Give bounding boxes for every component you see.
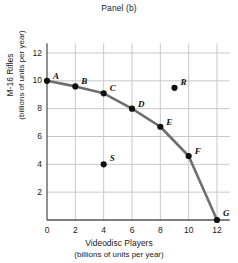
data-point-g: G — [223, 208, 230, 218]
x-tick-0: 0 — [39, 225, 55, 235]
x-tick-2: 2 — [67, 225, 83, 235]
x-tick-8: 8 — [152, 225, 168, 235]
y-tick-6: 6 — [26, 131, 42, 141]
data-point-r: R — [181, 77, 187, 87]
y-tick-12: 12 — [26, 48, 42, 58]
axis-lines — [47, 43, 230, 220]
y-tick-2: 2 — [26, 187, 42, 197]
x-tick-10: 10 — [181, 225, 197, 235]
x-tick-4: 4 — [96, 225, 112, 235]
data-point-d: D — [138, 99, 145, 109]
data-point-e: E — [166, 117, 172, 127]
data-point-c: C — [110, 83, 116, 93]
chart-container: Panel (b) M-16 Rifles (billions of units… — [0, 0, 238, 263]
data-point-f: F — [195, 146, 201, 156]
x-tick-6: 6 — [124, 225, 140, 235]
data-point-a: A — [53, 71, 59, 81]
data-point-b: B — [81, 76, 87, 86]
y-tick-10: 10 — [26, 75, 42, 85]
grid-lines — [47, 43, 230, 220]
data-point-s: S — [110, 153, 115, 163]
y-tick-8: 8 — [26, 103, 42, 113]
y-tick-4: 4 — [26, 159, 42, 169]
x-tick-12: 12 — [209, 225, 225, 235]
